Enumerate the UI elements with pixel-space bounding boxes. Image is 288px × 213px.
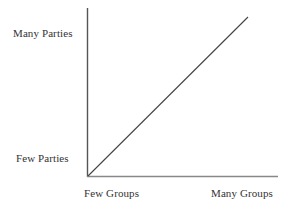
y-axis-high-label: Many Parties	[13, 27, 73, 39]
x-axis-high-label: Many Groups	[211, 187, 273, 199]
y-axis-low-label: Few Parties	[16, 152, 69, 164]
data-line-series-1	[88, 17, 248, 176]
chart-figure: Many Parties Few Parties Few Groups Many…	[0, 0, 288, 213]
x-axis-low-label: Few Groups	[84, 187, 139, 199]
